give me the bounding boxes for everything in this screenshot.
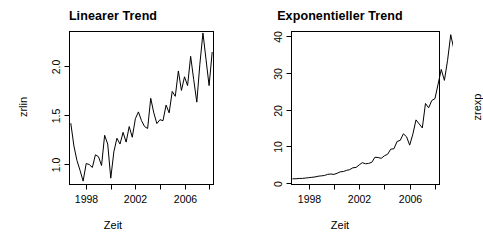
x-axis-title-zeit-right: Zeit — [227, 219, 453, 231]
y-axis-title-zrexp: zrexp — [471, 77, 483, 137]
y-tick-label: 0 — [272, 181, 284, 187]
y-tick-label: 40 — [272, 31, 284, 43]
panel-exponentieller-trend: Exponentieller Trend zrexp Zeit 19982002… — [227, 0, 453, 246]
plot-box — [70, 32, 214, 185]
plot-area-exponentieller-trend — [227, 0, 453, 246]
data-series-line — [293, 35, 453, 179]
panel-linearer-trend: Linearer Trend zrlin Zeit 1998200220061.… — [0, 0, 226, 246]
x-tick-label: 2002 — [348, 193, 371, 205]
y-tick-label: 1.0 — [50, 157, 62, 172]
x-tick-label: 2006 — [174, 193, 197, 205]
plot-area-linearer-trend — [0, 0, 226, 246]
data-series-line — [71, 33, 212, 181]
y-tick-label: 2.0 — [50, 59, 62, 74]
x-tick-label: 2002 — [124, 193, 147, 205]
plot-box — [292, 32, 440, 185]
x-axis-title-zeit-left: Zeit — [0, 219, 226, 231]
x-tick-label: 1998 — [298, 193, 321, 205]
y-tick-label: 30 — [272, 68, 284, 80]
y-tick-label: 10 — [272, 141, 284, 153]
y-tick-label: 20 — [272, 105, 284, 117]
x-tick-label: 1998 — [75, 193, 98, 205]
x-tick-label: 2006 — [399, 193, 422, 205]
y-tick-label: 1.5 — [50, 108, 62, 123]
y-axis-title-zrlin: zrlin — [17, 77, 29, 137]
